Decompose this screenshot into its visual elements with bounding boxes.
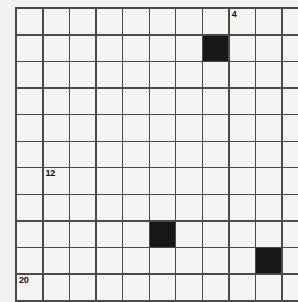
grid-cell[interactable]: [203, 275, 228, 300]
grid-cell[interactable]: [44, 142, 69, 167]
grid-cell[interactable]: [230, 142, 255, 167]
grid-cell[interactable]: [44, 89, 69, 114]
grid-cell[interactable]: [44, 248, 69, 273]
grid-cell[interactable]: [283, 142, 298, 167]
grid-cell[interactable]: [123, 222, 148, 247]
grid-cell[interactable]: [44, 9, 69, 34]
grid-cell[interactable]: [97, 168, 122, 193]
grid-cell[interactable]: [256, 36, 281, 61]
grid-cell[interactable]: [176, 115, 201, 140]
grid-cell[interactable]: [44, 115, 69, 140]
grid-cell[interactable]: [256, 62, 281, 87]
grid-cell[interactable]: [150, 36, 175, 61]
grid-cell[interactable]: [203, 62, 228, 87]
grid-cell[interactable]: [17, 9, 42, 34]
grid-cell[interactable]: [44, 222, 69, 247]
grid-cell[interactable]: [44, 36, 69, 61]
grid-cell[interactable]: [203, 89, 228, 114]
grid-cell[interactable]: [176, 195, 201, 220]
grid-cell[interactable]: [17, 248, 42, 273]
grid-cell[interactable]: [230, 115, 255, 140]
grid-cell[interactable]: [17, 36, 42, 61]
grid-cell[interactable]: [70, 115, 95, 140]
grid-cell[interactable]: [123, 62, 148, 87]
grid-cell[interactable]: [256, 222, 281, 247]
grid-cell[interactable]: [283, 248, 298, 273]
grid-cell[interactable]: [97, 89, 122, 114]
grid-cell[interactable]: [70, 275, 95, 300]
grid-cell[interactable]: [150, 89, 175, 114]
grid-cell[interactable]: [97, 142, 122, 167]
grid-cell[interactable]: [283, 195, 298, 220]
grid-cell[interactable]: [283, 275, 298, 300]
grid-cell[interactable]: [176, 62, 201, 87]
grid-cell[interactable]: [70, 195, 95, 220]
grid-cell[interactable]: [256, 89, 281, 114]
grid-cell[interactable]: [150, 62, 175, 87]
grid-cell[interactable]: [283, 36, 298, 61]
grid-cell[interactable]: [203, 222, 228, 247]
grid-cell[interactable]: [17, 115, 42, 140]
grid-cell[interactable]: [203, 142, 228, 167]
grid-cell[interactable]: [97, 9, 122, 34]
grid-cell[interactable]: [256, 275, 281, 300]
grid-cell[interactable]: [230, 168, 255, 193]
grid-cell[interactable]: [283, 168, 298, 193]
grid-cell[interactable]: [176, 275, 201, 300]
grid-cell[interactable]: [70, 9, 95, 34]
grid-cell[interactable]: [70, 62, 95, 87]
grid-cell[interactable]: [123, 142, 148, 167]
grid-cell[interactable]: [17, 62, 42, 87]
grid-cell[interactable]: [97, 248, 122, 273]
grid-cell[interactable]: [150, 115, 175, 140]
grid-cell[interactable]: [283, 222, 298, 247]
grid-cell[interactable]: [256, 142, 281, 167]
grid-cell[interactable]: [176, 36, 201, 61]
grid-cell[interactable]: [203, 195, 228, 220]
grid-cell[interactable]: 4: [230, 9, 255, 34]
grid-cell[interactable]: [17, 168, 42, 193]
grid-cell[interactable]: [123, 89, 148, 114]
grid-cell[interactable]: [44, 62, 69, 87]
grid-cell[interactable]: [150, 248, 175, 273]
grid-cell[interactable]: [97, 222, 122, 247]
grid-cell[interactable]: [97, 62, 122, 87]
grid-cell[interactable]: [176, 89, 201, 114]
grid-cell[interactable]: [203, 115, 228, 140]
grid-cell[interactable]: [97, 195, 122, 220]
grid-cell[interactable]: [176, 168, 201, 193]
grid-cell[interactable]: [176, 248, 201, 273]
grid-cell[interactable]: [230, 275, 255, 300]
grid-cell[interactable]: [123, 115, 148, 140]
grid-cell[interactable]: [17, 222, 42, 247]
grid-cell[interactable]: [283, 89, 298, 114]
grid-cell[interactable]: [203, 9, 228, 34]
grid-cell[interactable]: [123, 248, 148, 273]
grid-cell[interactable]: [283, 62, 298, 87]
grid-cell[interactable]: [230, 62, 255, 87]
grid-cell[interactable]: [70, 222, 95, 247]
grid-cell[interactable]: [123, 9, 148, 34]
grid-cell[interactable]: [17, 142, 42, 167]
grid-cell[interactable]: [256, 195, 281, 220]
grid-cell[interactable]: [70, 168, 95, 193]
grid-cell[interactable]: [176, 142, 201, 167]
crossword-grid[interactable]: 41220: [15, 7, 298, 302]
grid-cell[interactable]: [97, 115, 122, 140]
grid-cell[interactable]: [230, 222, 255, 247]
grid-cell[interactable]: [256, 9, 281, 34]
grid-cell[interactable]: [97, 36, 122, 61]
grid-cell[interactable]: [70, 89, 95, 114]
grid-cell[interactable]: [150, 168, 175, 193]
grid-cell[interactable]: [230, 89, 255, 114]
grid-cell[interactable]: 20: [17, 275, 42, 300]
grid-cell[interactable]: [150, 195, 175, 220]
grid-cell[interactable]: [70, 142, 95, 167]
grid-cell[interactable]: [44, 275, 69, 300]
grid-cell[interactable]: [150, 142, 175, 167]
grid-cell[interactable]: [176, 222, 201, 247]
grid-cell[interactable]: [150, 275, 175, 300]
grid-cell[interactable]: [97, 275, 122, 300]
grid-cell[interactable]: [203, 168, 228, 193]
grid-cell[interactable]: 12: [44, 168, 69, 193]
